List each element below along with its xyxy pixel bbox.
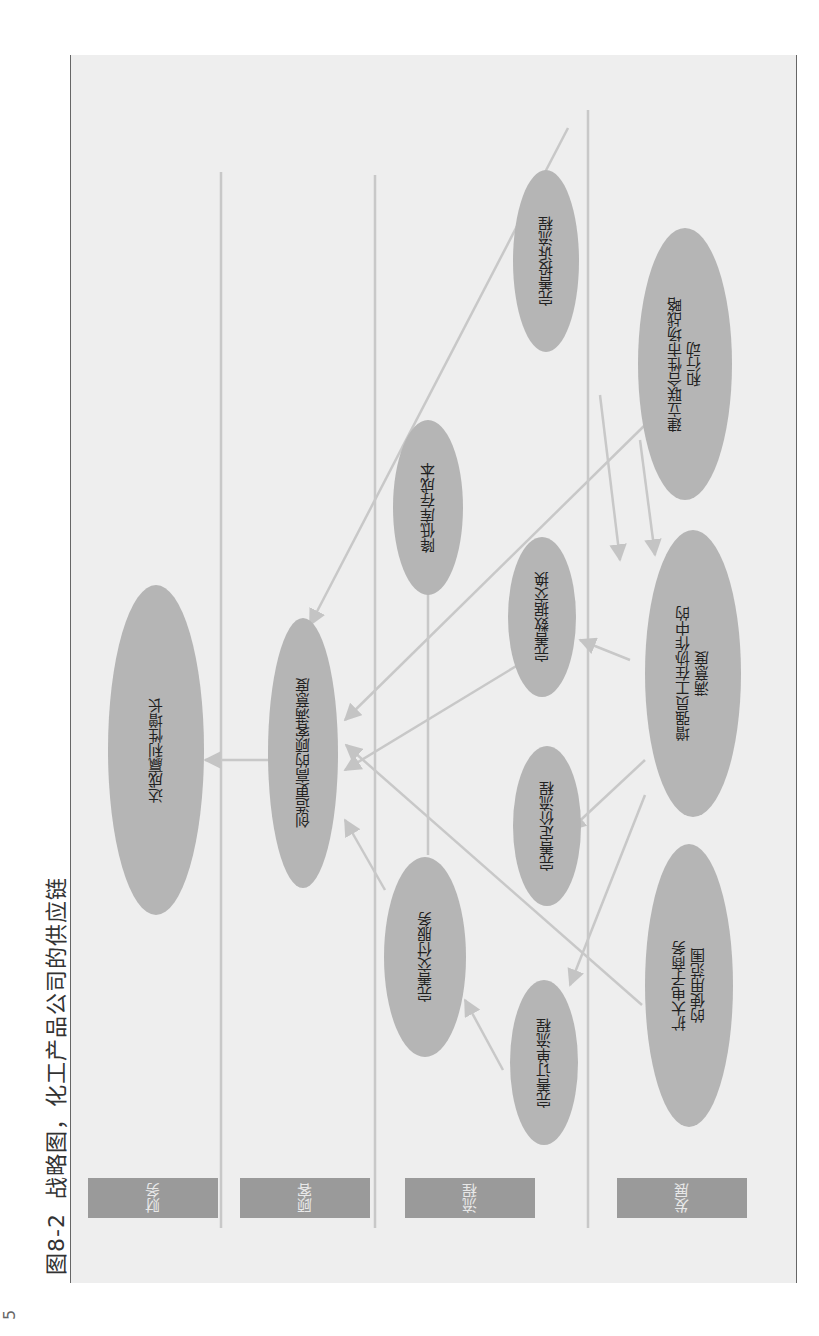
node-customer-satisfaction: 创造更高的顾客满意度 <box>268 618 338 888</box>
node-ecommerce: 扩大电子商务 的使用范围 <box>645 844 733 1127</box>
node-joint-market: 建立联合性市场战略 和行动 <box>638 228 732 500</box>
edge-data-to-satisfaction <box>345 665 518 770</box>
lane-label-process: 流程 <box>405 1178 535 1218</box>
edge-order-to-delivery <box>465 1000 503 1070</box>
node-order-process: 完善订单流程 <box>510 980 578 1145</box>
edge-delivery-to-satisfaction <box>345 820 385 890</box>
node-profit-growth: 达成赢利性增长 <box>108 585 204 915</box>
edge-employee-complaint <box>600 395 620 560</box>
node-inventory-cost: 降低库存成本 <box>393 420 463 595</box>
lane-label-growth: 发展 <box>617 1178 747 1218</box>
edge-employee-to-pricing <box>570 760 645 830</box>
node-data-exchange: 完善数据交换 <box>508 537 576 697</box>
node-complaint-process: 完善投诉流程 <box>513 170 579 352</box>
node-delivery-service: 完善交付服务 <box>384 857 466 1057</box>
edge-employee-to-order <box>570 795 645 985</box>
node-employee-satisfaction: 增强员工在协作中的 满意度 <box>645 530 741 817</box>
lane-label-finance: 财务 <box>88 1178 218 1218</box>
lane-label-customer: 顾客 <box>240 1178 370 1218</box>
node-pricing-process: 完善定价流程 <box>513 746 581 906</box>
